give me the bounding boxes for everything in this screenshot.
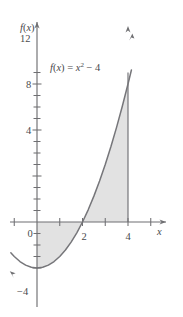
y-tick-label-12: 12 <box>20 33 31 44</box>
y-tick-label-8: 8 <box>26 79 31 90</box>
curve-right-arrow-icon <box>129 34 134 41</box>
curve-left-arrow-icon <box>10 271 16 278</box>
x-axis-title: x <box>156 226 162 237</box>
function-plot: f(x) x1284−4024 f(x) = x2 − 4 <box>0 0 183 317</box>
shaded-area-below-axis <box>37 222 83 268</box>
figure-container: f(x) x1284−4024 f(x) = x2 − 4 <box>0 0 183 317</box>
y-tick-label-minus-4: −4 <box>17 286 29 297</box>
equation-annotation: f(x) = x2 − 4 <box>50 61 101 74</box>
y-tick-label-4: 4 <box>26 125 32 136</box>
vertical-boundary-arrow-icon <box>126 26 131 33</box>
x-tick-label-4: 4 <box>125 231 131 242</box>
shaded-area-above-axis <box>83 84 129 222</box>
x-tick-label-0: 0 <box>27 228 32 239</box>
x-tick-label-2: 2 <box>81 231 86 242</box>
